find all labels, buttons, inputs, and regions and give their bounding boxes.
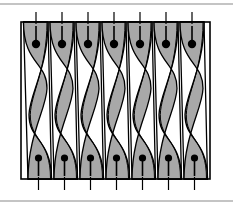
pin-dot-top-3 [84, 40, 92, 48]
pin-dot-top-2 [58, 40, 66, 48]
pin-dot-top-6 [162, 40, 170, 48]
pin-dot-top-7 [188, 40, 196, 48]
twisted-band-array-figure [0, 0, 233, 209]
pin-dot-top-4 [110, 40, 118, 48]
figure-container [0, 0, 233, 209]
pin-dot-top-5 [136, 40, 144, 48]
pin-dot-top-1 [32, 40, 40, 48]
